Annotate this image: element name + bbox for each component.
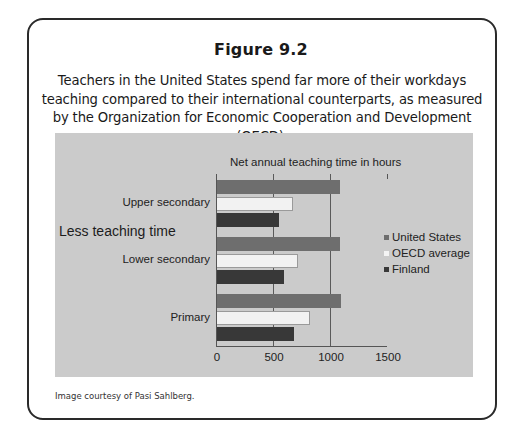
legend-item-finland: Finland — [384, 261, 470, 277]
legend-swatch-finland — [384, 267, 389, 272]
gridline-1000 — [330, 174, 331, 346]
bar-upper-secondary-us — [217, 180, 340, 194]
x-tick-500: 500 — [264, 351, 283, 363]
bar-primary-us — [217, 294, 341, 308]
category-label-lower-secondary: Lower secondary — [122, 253, 210, 265]
y-axis — [216, 174, 217, 346]
legend-item-united-states: United States — [384, 229, 470, 245]
x-tick-0: 0 — [214, 351, 220, 363]
chart-title: Net annual teaching time in hours — [230, 156, 401, 168]
bar-upper-secondary-oecd — [217, 197, 293, 211]
legend-swatch-us — [384, 235, 389, 240]
chart-annotation: Less teaching time — [59, 223, 176, 239]
legend-label: Finland — [392, 263, 430, 275]
x-tick-1500: 1500 — [375, 351, 401, 363]
bar-lower-secondary-us — [217, 237, 340, 251]
image-credit: Image courtesy of Pasi Sahlberg. — [55, 391, 195, 401]
legend-label: OECD average — [392, 247, 470, 259]
figure-title: Figure 9.2 — [0, 40, 522, 59]
category-label-primary: Primary — [170, 311, 210, 323]
plot-area — [216, 174, 387, 346]
legend-item-oecd-average: OECD average — [384, 245, 470, 261]
chart-legend: United States OECD average Finland — [384, 229, 470, 277]
bar-primary-oecd — [217, 311, 310, 325]
bar-lower-secondary-oecd — [217, 254, 298, 268]
legend-swatch-oecd — [384, 251, 389, 256]
tick-1500 — [387, 174, 388, 179]
x-tick-1000: 1000 — [318, 351, 344, 363]
x-axis — [216, 346, 387, 347]
bar-primary-finland — [217, 327, 294, 341]
legend-label: United States — [392, 231, 461, 243]
bar-lower-secondary-finland — [217, 270, 284, 284]
category-label-upper-secondary: Upper secondary — [122, 196, 210, 208]
bar-upper-secondary-finland — [217, 213, 279, 227]
